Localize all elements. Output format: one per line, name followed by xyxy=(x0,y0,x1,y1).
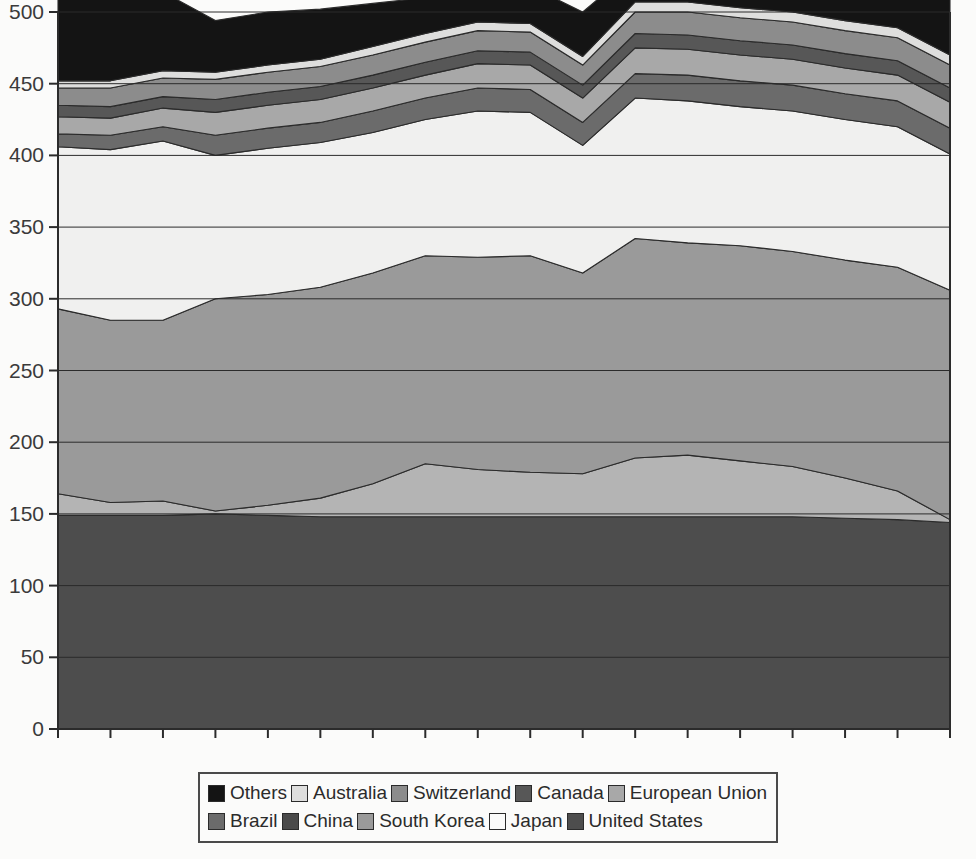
legend-swatch-icon xyxy=(208,813,225,830)
y-tick-label-500: 500 xyxy=(9,0,44,23)
chart-page: 050100150200250300350400450500 199019911… xyxy=(0,0,976,859)
legend-row: OthersAustraliaSwitzerlandCanadaEuropean… xyxy=(208,779,768,807)
legend-item-south-korea[interactable]: South Korea xyxy=(357,810,485,832)
y-tick-label-400: 400 xyxy=(9,143,44,166)
y-tick-label-350: 350 xyxy=(9,215,44,238)
legend-swatch-icon xyxy=(608,785,625,802)
stacked-area-chart: 050100150200250300350400450500 199019911… xyxy=(0,0,976,740)
legend-swatch-icon xyxy=(567,813,584,830)
y-tick-label-0: 0 xyxy=(32,717,44,740)
area-series-group xyxy=(58,0,950,729)
y-tick-label-150: 150 xyxy=(9,502,44,525)
legend-item-canada[interactable]: Canada xyxy=(515,782,604,804)
legend-label: China xyxy=(304,810,354,832)
legend-swatch-icon xyxy=(291,785,308,802)
legend-row: BrazilChinaSouth KoreaJapanUnited States xyxy=(208,807,768,835)
legend-label: Japan xyxy=(511,810,563,832)
legend-item-china[interactable]: China xyxy=(282,810,354,832)
legend-item-switzerland[interactable]: Switzerland xyxy=(391,782,511,804)
legend-item-european-union[interactable]: European Union xyxy=(608,782,767,804)
y-axis-ticks: 050100150200250300350400450500 xyxy=(9,0,58,740)
legend-item-united-states[interactable]: United States xyxy=(567,810,703,832)
legend-swatch-icon xyxy=(515,785,532,802)
legend-swatch-icon xyxy=(391,785,408,802)
legend-item-australia[interactable]: Australia xyxy=(291,782,387,804)
legend-swatch-icon xyxy=(489,813,506,830)
y-tick-label-200: 200 xyxy=(9,430,44,453)
legend-item-others[interactable]: Others xyxy=(208,782,287,804)
legend-label: Brazil xyxy=(230,810,278,832)
y-tick-label-250: 250 xyxy=(9,359,44,382)
legend-swatch-icon xyxy=(282,813,299,830)
legend-item-japan[interactable]: Japan xyxy=(489,810,563,832)
legend-label: United States xyxy=(589,810,703,832)
y-tick-label-50: 50 xyxy=(21,645,44,668)
y-tick-label-100: 100 xyxy=(9,574,44,597)
legend-label: South Korea xyxy=(379,810,485,832)
legend-item-brazil[interactable]: Brazil xyxy=(208,810,278,832)
y-tick-label-300: 300 xyxy=(9,287,44,310)
legend-label: Canada xyxy=(537,782,604,804)
legend-swatch-icon xyxy=(208,785,225,802)
x-axis-ticks: 1990199119931994199519961997199819992000… xyxy=(37,729,971,740)
legend-label: Others xyxy=(230,782,287,804)
chart-legend: OthersAustraliaSwitzerlandCanadaEuropean… xyxy=(198,772,778,843)
legend-label: European Union xyxy=(630,782,767,804)
legend-label: Australia xyxy=(313,782,387,804)
area-series-united-states xyxy=(58,514,950,729)
y-tick-label-450: 450 xyxy=(9,72,44,95)
legend-label: Switzerland xyxy=(413,782,511,804)
legend-swatch-icon xyxy=(357,813,374,830)
